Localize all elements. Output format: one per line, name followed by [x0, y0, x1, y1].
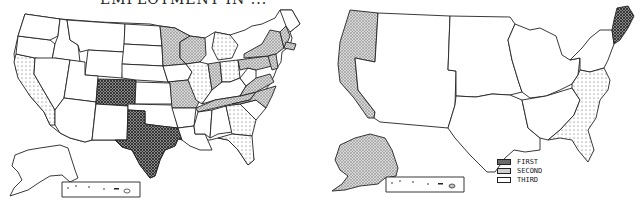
region-new-england	[612, 6, 634, 44]
legend-item-second: SECOND	[497, 166, 542, 175]
maps-canvas	[0, 0, 641, 200]
second-swatch-icon	[497, 168, 511, 174]
legend-label-third: THIRD	[517, 176, 538, 184]
region-map	[332, 6, 634, 192]
state-map	[10, 10, 300, 197]
third-swatch-icon	[497, 177, 511, 183]
state-florida	[218, 134, 254, 165]
first-swatch-icon	[497, 159, 511, 165]
legend-label-first: FIRST	[517, 158, 538, 166]
state-wisconsin	[180, 36, 206, 64]
legend-item-first: FIRST	[497, 157, 542, 166]
legend-item-third: THIRD	[497, 175, 542, 184]
state-ohio	[220, 60, 240, 82]
state-colorado	[96, 79, 136, 106]
legend-label-second: SECOND	[517, 167, 542, 175]
state-massachusetts	[284, 42, 296, 50]
legend: FIRST SECOND THIRD	[497, 157, 542, 184]
